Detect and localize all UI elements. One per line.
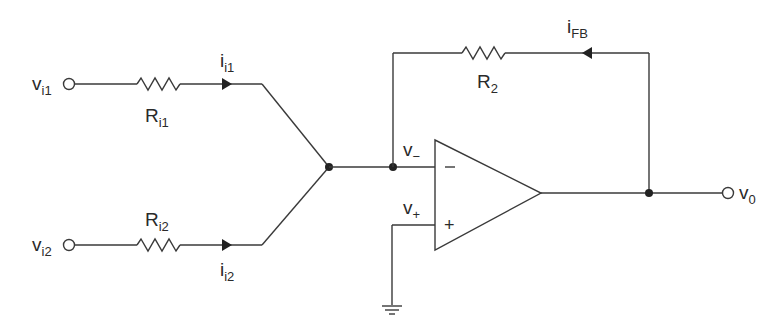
label-vi1: vi1	[32, 73, 52, 98]
output-terminal-icon	[723, 188, 734, 199]
ground-icon	[382, 306, 402, 314]
plus-sign: +	[444, 215, 455, 235]
input-terminal-1-icon	[64, 79, 75, 90]
resistor-ri2-icon	[137, 239, 180, 251]
label-vi2: vi2	[32, 234, 52, 259]
label-vo: v0	[739, 182, 756, 207]
feedback-branch	[393, 47, 649, 193]
input-terminal-2-icon	[64, 240, 75, 251]
label-ri2: Ri2	[145, 209, 169, 234]
label-ri1: Ri1	[145, 105, 169, 130]
label-r2: R2	[477, 71, 498, 96]
label-ii2: ii2	[220, 259, 234, 284]
current-arrow-i1-icon	[222, 78, 232, 90]
resistor-r2-icon	[462, 47, 505, 59]
current-arrow-i2-icon	[222, 239, 232, 251]
label-v-plus: v+	[403, 197, 420, 222]
input-1-branch	[64, 78, 330, 167]
label-ii1: ii1	[220, 50, 234, 75]
input-2-branch	[64, 167, 330, 251]
summing-amplifier-schematic: + vi1 Ri1 ii1 vi2 Ri2 ii2 R2 iFB v− v+ v…	[0, 0, 783, 322]
label-v-minus: v−	[403, 139, 420, 164]
output-node-icon	[645, 189, 653, 197]
label-ifb: iFB	[567, 16, 588, 41]
current-arrow-ifb-icon	[582, 47, 592, 59]
resistor-ri1-icon	[137, 78, 180, 90]
